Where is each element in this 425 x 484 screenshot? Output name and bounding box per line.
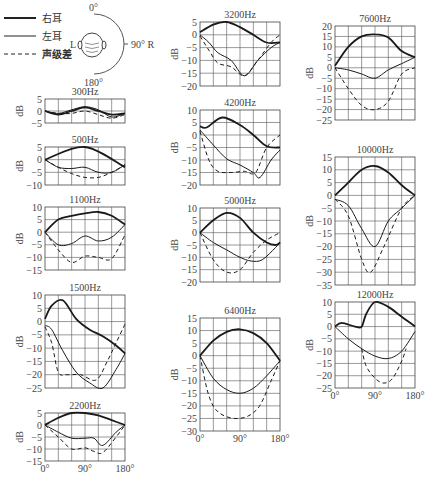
subplot-title: 1100Hz (69, 194, 101, 205)
y-tick-label: 0 (192, 350, 197, 361)
y-tick-label: 5 (192, 17, 197, 28)
y-tick-label: 15 (322, 152, 332, 163)
y-tick-label: −10 (26, 180, 42, 191)
y-tick-label: −10 (26, 343, 42, 354)
head-icon (81, 33, 103, 57)
y-tick-label: 5 (37, 94, 42, 105)
y-tick-label: −5 (31, 329, 42, 340)
y-axis-label: dB (14, 335, 25, 347)
y-tick-label: 0 (192, 227, 197, 238)
y-tick-label: 10 (187, 203, 197, 214)
subplot-300hz: 50−5300HzdB (14, 86, 125, 129)
subplot-title: 4200Hz (224, 97, 256, 108)
y-axis-label: dB (14, 160, 25, 172)
legend: 右耳 左耳 声级差 0° 180° 90° R L (4, 2, 154, 88)
head-label-0: 0° (89, 2, 98, 13)
y-tick-label: −15 (181, 264, 197, 275)
legend-label-level-diff: 声级差 (41, 48, 72, 60)
x-tick-label: 0° (196, 433, 205, 444)
y-tick-label: −5 (186, 42, 197, 53)
y-axis-label: dB (169, 48, 180, 60)
y-tick-label: −20 (26, 369, 42, 380)
y-tick-label: 10 (32, 290, 42, 301)
y-tick-label: 5 (37, 408, 42, 419)
x-tick-label: 0° (41, 463, 50, 474)
subplot-title: 7600Hz (359, 13, 391, 24)
subplot-6400hz: 151050−5−10−15−20−25−306400HzdB0°90°180° (169, 305, 290, 444)
subplot-title: 3200Hz (224, 9, 256, 20)
subplot-title: 6400Hz (224, 305, 256, 316)
legend-label-left-ear: 左耳 (42, 30, 62, 42)
y-tick-label: −10 (316, 216, 332, 227)
subplot-500hz: 50−5−10500HzdB (14, 134, 125, 191)
subplot-10000hz: 151050−5−10−15−20−25−30−3510000HzdB (304, 144, 415, 291)
y-tick-label: −10 (316, 346, 332, 357)
y-tick-label: 10 (187, 325, 197, 336)
y-tick-label: −15 (316, 94, 332, 105)
y-tick-label: −20 (316, 241, 332, 252)
y-tick-label: 0 (192, 130, 197, 141)
y-tick-label: 5 (37, 214, 42, 225)
subplot-2200hz: 50−5−10−152200HzdB0°90°180° (14, 400, 135, 474)
y-tick-label: 5 (37, 303, 42, 314)
subplot-title: 300Hz (72, 86, 99, 97)
y-tick-label: −15 (316, 228, 332, 239)
y-tick-label: 20 (322, 21, 332, 32)
y-tick-label: 10 (187, 105, 197, 116)
y-tick-label: −30 (316, 267, 332, 278)
head-diagram: 0° 180° 90° R L (70, 2, 154, 88)
y-tick-label: −15 (181, 68, 197, 79)
legend-label-right-ear: 右耳 (42, 12, 62, 24)
y-axis-label: dB (169, 141, 180, 153)
y-tick-label: −10 (26, 444, 42, 455)
subplot-title: 12000Hz (357, 289, 394, 300)
subplot-1100hz: 1050−5−10−151100HzdB (14, 194, 125, 276)
y-tick-label: −15 (26, 356, 42, 367)
y-tick-label: 0 (327, 62, 332, 73)
y-tick-label: −5 (321, 203, 332, 214)
y-tick-label: 5 (192, 338, 197, 349)
y-tick-label: 0 (37, 227, 42, 238)
subplot-title: 500Hz (72, 134, 99, 145)
y-tick-label: 5 (192, 215, 197, 226)
subplot-5000hz: 1050−5−10−15−205000HzdB (169, 195, 280, 288)
subplot-3200hz: 50−5−10−15−203200HzdB (169, 9, 280, 92)
y-tick-label: 5 (37, 142, 42, 153)
y-tick-label: 0 (327, 321, 332, 332)
subplot-title: 5000Hz (224, 195, 256, 206)
x-tick-label: 180° (406, 390, 425, 401)
y-tick-label: 5 (327, 177, 332, 188)
y-tick-label: 0 (37, 420, 42, 431)
y-tick-label: 0 (37, 106, 42, 117)
y-axis-label: dB (14, 232, 25, 244)
y-tick-label: −25 (26, 383, 42, 394)
y-tick-label: 10 (322, 41, 332, 52)
y-tick-label: −5 (31, 118, 42, 129)
y-tick-label: 5 (327, 309, 332, 320)
subplot-title: 10000Hz (357, 144, 394, 155)
y-tick-label: 5 (192, 117, 197, 128)
x-tick-label: 180° (271, 433, 290, 444)
y-tick-label: 0 (37, 154, 42, 165)
y-tick-label: −25 (316, 115, 332, 126)
x-tick-label: 90° (368, 390, 382, 401)
x-tick-label: 0° (331, 390, 340, 401)
y-tick-label: −15 (181, 388, 197, 399)
y-tick-label: 0 (37, 316, 42, 327)
y-tick-label: −35 (316, 280, 332, 291)
y-tick-label: 10 (32, 202, 42, 213)
y-tick-label: 0 (327, 190, 332, 201)
subplot-7600hz: 20151050−5−10−15−20−257600HzdB (304, 13, 415, 126)
head-label-l: L (70, 39, 76, 50)
subplot-4200hz: 1050−5−10−15−204200HzdB (169, 97, 280, 191)
y-tick-label: −10 (26, 252, 42, 263)
y-tick-label: −15 (316, 358, 332, 369)
y-tick-label: −5 (31, 432, 42, 443)
y-tick-label: −25 (316, 254, 332, 265)
head-label-90r: 90° R (131, 39, 154, 50)
y-tick-label: −5 (321, 333, 332, 344)
x-tick-label: 90° (78, 463, 92, 474)
y-tick-label: −15 (26, 265, 42, 276)
y-tick-label: −20 (316, 370, 332, 381)
y-tick-label: 0 (192, 29, 197, 40)
